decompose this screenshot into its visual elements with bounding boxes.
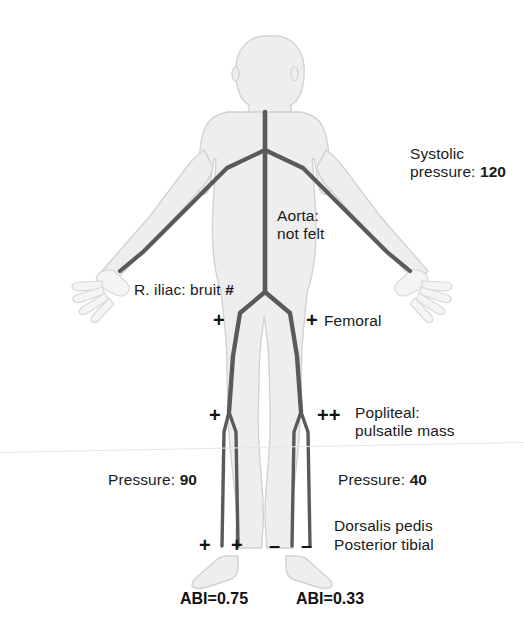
posterior-tibial-label: Posterior tibial bbox=[334, 536, 434, 554]
right-posterior-tibial-marker: – bbox=[301, 535, 312, 555]
iliac-text: R. iliac: bruit bbox=[134, 281, 225, 298]
aorta-line1: Aorta: bbox=[277, 207, 319, 224]
popliteal-left-marker: + bbox=[209, 405, 221, 425]
iliac-bruit-marker: # bbox=[225, 281, 234, 298]
abi-right-label: ABI=0.33 bbox=[296, 590, 364, 608]
right-posterior-tibial-artery bbox=[301, 412, 310, 546]
systolic-line1: Systolic bbox=[410, 145, 464, 162]
popliteal-label: Popliteal:pulsatile mass bbox=[355, 404, 455, 440]
body-silhouette bbox=[72, 36, 452, 589]
right-dorsalis-pedis-marker: – bbox=[269, 535, 280, 555]
pressure-left-value: 90 bbox=[180, 471, 197, 488]
systolic-pressure-label: Systolicpressure: 120 bbox=[410, 145, 506, 181]
systolic-value: 120 bbox=[480, 163, 506, 180]
arterial-exam-figure: Systolicpressure: 120 Aorta:not felt R. … bbox=[0, 0, 524, 627]
left-posterior-tibial-marker: + bbox=[231, 535, 243, 555]
dorsalis-pedis-label: Dorsalis pedis bbox=[334, 517, 433, 535]
aorta-label: Aorta:not felt bbox=[277, 207, 324, 243]
left-dorsalis-pedis-marker: + bbox=[199, 535, 211, 555]
iliac-label: R. iliac: bruit # bbox=[134, 281, 234, 299]
systolic-line2-prefix: pressure: bbox=[410, 163, 480, 180]
popliteal-right-marker: ++ bbox=[317, 405, 340, 425]
femoral-right-marker: + bbox=[306, 310, 318, 330]
pressure-left-prefix: Pressure: bbox=[108, 471, 180, 488]
aorta-line2: not felt bbox=[277, 225, 324, 242]
pressure-right-label: Pressure: 40 bbox=[338, 471, 427, 489]
pressure-left-label: Pressure: 90 bbox=[108, 471, 197, 489]
pressure-right-prefix: Pressure: bbox=[338, 471, 410, 488]
body-diagram bbox=[0, 0, 524, 627]
pressure-right-value: 40 bbox=[410, 471, 427, 488]
popliteal-line1: Popliteal: bbox=[355, 404, 420, 421]
abi-left-label: ABI=0.75 bbox=[180, 590, 248, 608]
left-anterior-tibial-artery bbox=[222, 412, 229, 546]
femoral-left-marker: + bbox=[213, 310, 225, 330]
femoral-label: Femoral bbox=[324, 312, 382, 330]
popliteal-line2: pulsatile mass bbox=[355, 422, 455, 439]
